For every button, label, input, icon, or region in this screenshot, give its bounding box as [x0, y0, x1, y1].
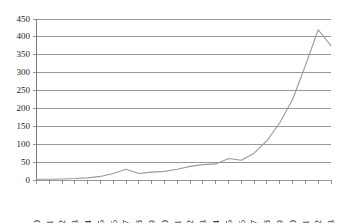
y-tick-label: 100	[17, 139, 31, 149]
x-tick-label: 2013	[326, 220, 336, 224]
y-axis-tickmarks	[33, 19, 37, 180]
x-axis-tickmarks	[37, 180, 332, 184]
x-tick-label: 2008	[262, 220, 272, 224]
x-tick-label: 2003	[198, 220, 208, 224]
x-tick-label: 1996	[109, 220, 119, 224]
x-tick-label: 2009	[275, 220, 285, 224]
y-tick-label: 200	[17, 103, 31, 113]
line-chart: 050100150200250300350400450 199019911992…	[0, 0, 346, 223]
y-tick-label: 0	[26, 175, 31, 185]
x-tick-label: 2001	[173, 220, 183, 223]
x-tick-label: 1990	[32, 220, 42, 224]
gridlines	[37, 19, 332, 180]
chart-canvas: 050100150200250300350400450 199019911992…	[0, 0, 346, 223]
x-tick-label: 1993	[70, 220, 80, 224]
x-tick-label: 2000	[160, 220, 170, 224]
x-tick-label: 2012	[313, 220, 323, 223]
x-tick-label: 1991	[45, 220, 55, 223]
x-tick-label: 1997	[121, 220, 131, 224]
data-series-line	[37, 30, 332, 180]
y-axis-tick-labels: 050100150200250300350400450	[17, 14, 31, 185]
y-tick-label: 150	[17, 121, 31, 131]
y-tick-label: 350	[17, 49, 31, 59]
x-tick-label: 2005	[224, 220, 234, 224]
y-tick-label: 50	[21, 157, 31, 167]
x-tick-label: 1998	[134, 220, 144, 224]
x-axis-tick-labels: 1990199119921993199419951996199719981999…	[32, 220, 337, 224]
x-tick-label: 2006	[237, 220, 247, 224]
x-tick-label: 2010	[288, 220, 298, 224]
y-tick-label: 450	[17, 14, 31, 24]
y-tick-label: 400	[17, 31, 31, 41]
x-tick-label: 1994	[83, 220, 93, 224]
x-tick-label: 1999	[147, 220, 157, 224]
x-tick-label: 1992	[57, 220, 67, 223]
x-tick-label: 2002	[185, 220, 195, 223]
x-tick-label: 2004	[211, 220, 221, 224]
x-tick-label: 2007	[249, 220, 259, 224]
x-tick-label: 1995	[96, 220, 106, 224]
y-tick-label: 250	[17, 85, 31, 95]
y-tick-label: 300	[17, 67, 31, 77]
x-tick-label: 2011	[301, 220, 311, 223]
